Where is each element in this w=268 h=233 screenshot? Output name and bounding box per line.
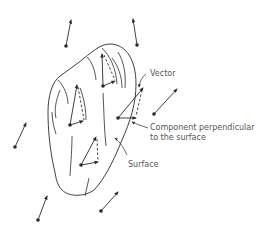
vector-label: Vector (150, 69, 176, 79)
surface-vector-3 (116, 88, 143, 120)
surface-contours (52, 48, 125, 196)
surface-vector-4 (79, 137, 98, 167)
diagram-canvas (0, 0, 268, 233)
surface-outline (48, 44, 136, 195)
component-label-line2: to the surface (150, 133, 206, 143)
surface-label: Surface (128, 160, 158, 170)
component-label-line1: Component perpendicular (150, 123, 255, 133)
